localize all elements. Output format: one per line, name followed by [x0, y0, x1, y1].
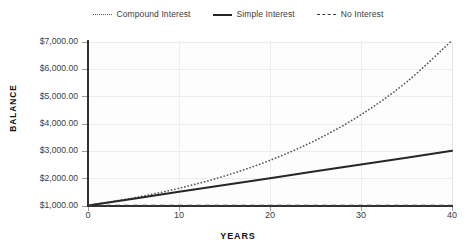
y-axis-title: BALANCE	[8, 73, 18, 143]
y-axis-tick-label: $3,000.00	[4, 145, 78, 155]
series-line-simple-interest	[88, 151, 452, 206]
x-axis-title: YEARS	[0, 231, 476, 241]
x-axis-tick-label: 20	[250, 210, 290, 220]
interest-growth-chart: Compound Interest Simple Interest No Int…	[0, 0, 476, 250]
x-axis-tick-label: 40	[432, 210, 472, 220]
y-axis-tick-label: $1,000.00	[4, 200, 78, 210]
series-line-compound-interest	[88, 40, 452, 205]
y-axis-tick-label: $7,000.00	[4, 36, 78, 46]
y-axis-tick-label: $2,000.00	[4, 173, 78, 183]
x-axis-tick-label: 0	[68, 210, 108, 220]
y-axis-tick-label: $6,000.00	[4, 63, 78, 73]
x-axis-tick-label: 30	[341, 210, 381, 220]
x-axis-tick-label: 10	[159, 210, 199, 220]
